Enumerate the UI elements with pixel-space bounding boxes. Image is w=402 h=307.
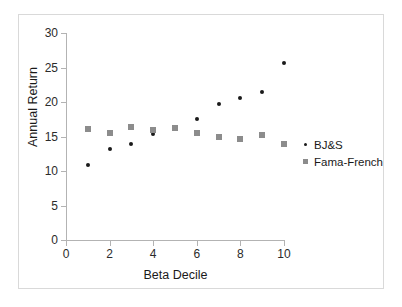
x-tick-label-10: 10 — [272, 248, 296, 260]
x-tick-0 — [66, 241, 67, 246]
x-tick-10 — [284, 241, 285, 246]
data-point — [108, 147, 112, 151]
data-point — [129, 142, 133, 146]
x-tick-label-8: 8 — [228, 248, 252, 260]
x-tick-label-4: 4 — [141, 248, 165, 260]
data-point — [195, 117, 199, 121]
data-point — [282, 61, 286, 65]
data-point — [172, 125, 178, 131]
data-point — [259, 132, 265, 138]
chart-legend: BJ&S Fama-French — [299, 136, 383, 170]
data-point — [237, 136, 243, 142]
data-point — [194, 130, 200, 136]
data-point — [128, 124, 134, 130]
x-tick-label-2: 2 — [98, 248, 122, 260]
legend-label-fama-french: Fama-French — [314, 156, 383, 168]
y-axis-line — [66, 33, 67, 241]
data-point — [86, 163, 90, 167]
data-point — [216, 134, 222, 140]
data-point — [151, 132, 155, 136]
x-axis-title: Beta Decile — [66, 268, 285, 282]
y-tick-10 — [61, 171, 66, 172]
y-tick-30 — [61, 33, 66, 34]
y-tick-label-5: 5 — [30, 200, 58, 212]
x-tick-label-6: 6 — [185, 248, 209, 260]
data-point — [260, 90, 264, 94]
y-tick-5 — [61, 206, 66, 207]
x-axis-line — [66, 240, 285, 241]
y-tick-label-30: 30 — [30, 27, 58, 39]
y-tick-15 — [61, 137, 66, 138]
data-point — [150, 127, 156, 133]
y-tick-label-0: 0 — [30, 234, 58, 246]
scatter-plot-area: 051015202530 0246810 Annual Return Beta … — [0, 0, 402, 307]
y-axis-title: Annual Return — [26, 47, 40, 167]
data-point — [238, 96, 242, 100]
y-tick-25 — [61, 68, 66, 69]
data-point — [281, 141, 287, 147]
data-point — [107, 130, 113, 136]
legend-label-bjs: BJ&S — [314, 139, 343, 151]
legend-marker-dot-icon — [299, 143, 312, 146]
data-point — [217, 102, 221, 106]
y-tick-20 — [61, 102, 66, 103]
x-tick-label-0: 0 — [54, 248, 78, 260]
legend-item-fama-french: Fama-French — [299, 153, 383, 170]
x-tick-2 — [110, 241, 111, 246]
x-tick-8 — [240, 241, 241, 246]
x-tick-6 — [197, 241, 198, 246]
data-point — [85, 126, 91, 132]
x-tick-4 — [153, 241, 154, 246]
legend-marker-square-icon — [299, 159, 312, 164]
legend-item-bjs: BJ&S — [299, 136, 383, 153]
chart-figure: 051015202530 0246810 Annual Return Beta … — [0, 0, 402, 307]
